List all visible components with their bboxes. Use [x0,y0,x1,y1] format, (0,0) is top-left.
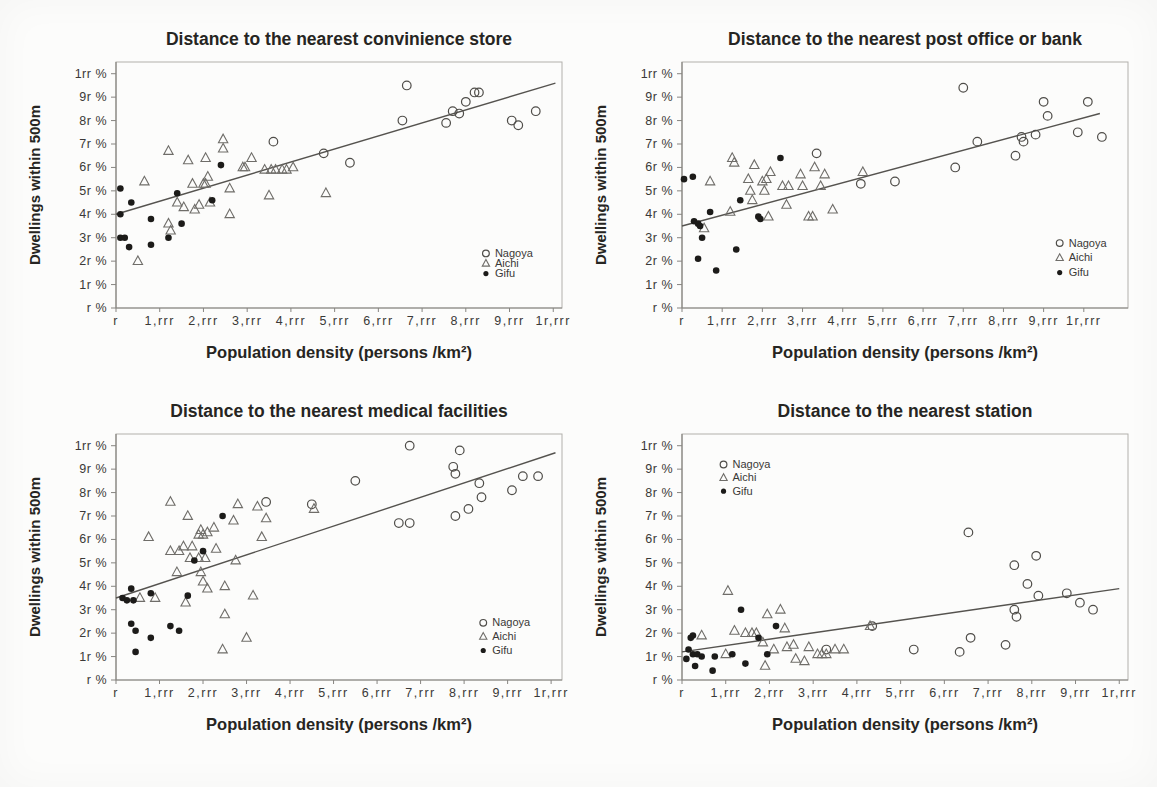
gifu-point-marker [742,660,749,667]
aichi-point-marker [257,532,266,541]
aichi-point-marker [225,209,234,218]
x-tick-label: 5,rrr [868,314,898,328]
aichi-point-marker [242,633,251,642]
y-tick-label: 6r % [645,532,673,546]
x-tick-label: 1r,rrr [533,686,568,700]
gifu-point-marker [692,663,699,670]
x-tick-label: 8,rrr [451,314,481,328]
gifu-point-marker [148,635,155,642]
aichi-point-marker [166,546,175,555]
x-tick-label: 1r,rrr [1066,314,1101,328]
gifu-point-marker [695,256,702,263]
aichi-point-marker [810,162,819,171]
aichi-point-marker [220,581,229,590]
x-tick-label: r [679,314,685,328]
x-tick-label: 7,rrr [405,686,435,700]
x-tick-label: 5,rrr [318,686,348,700]
gifu-point-marker [200,548,207,555]
aichi-point-marker [705,176,714,185]
aichi-point-marker [321,188,330,197]
y-tick-label: 9r % [645,462,673,476]
nagoya-point-marker [395,519,404,528]
gifu-point-marker [148,241,155,248]
chart-title: Distance to the nearest post office or b… [728,29,1082,49]
plot-area: r1,rrr2,rrr3,rrr4,rrr5,rrr6,rrr7,rrr8,rr… [641,434,1137,700]
gifu-point-marker [738,606,745,613]
nagoya-point-marker [857,180,866,189]
nagoya-point-marker [1073,128,1082,137]
aichi-point-marker [188,179,197,188]
y-tick-label: 3r % [79,231,107,245]
aichi-point-marker [233,499,242,508]
y-tick-label: 1rr % [75,439,107,453]
x-tick-label: 5,rrr [319,314,349,328]
y-tick-label: 3r % [79,603,107,617]
legend-label-aichi: Aichi [733,471,757,483]
gifu-point-marker [713,267,720,274]
x-tick-label: 3,rrr [798,686,828,700]
aichi-point-marker [746,186,755,195]
nagoya-point-marker [442,119,451,128]
legend-label-aichi: Aichi [1069,251,1093,263]
aichi-point-marker [164,218,173,227]
x-tick-label: 1,rrr [707,314,737,328]
y-axis-title: Dwellings within 500m [26,105,43,265]
nagoya-point-marker [1034,591,1043,600]
aichi-point-marker [780,623,789,632]
aichi-point-marker [203,172,212,181]
aichi-point-marker [229,515,238,524]
x-tick-label: 8,rrr [988,314,1018,328]
nagoya-point-marker [1098,133,1107,142]
aichi-point-marker [798,181,807,190]
aichi-point-marker [828,204,837,213]
y-tick-label: 3r % [645,231,673,245]
x-tick-label: 2,rrr [747,314,777,328]
x-tick-label: 8,rrr [449,686,479,700]
x-tick-label: 9,rrr [1060,686,1090,700]
aichi-point-marker [211,544,220,553]
legend-label-gifu: Gifu [733,485,753,497]
gifu-point-marker [698,653,705,660]
y-tick-label: 7r % [645,509,673,523]
y-tick-label: 1rr % [641,67,673,81]
x-tick-label: r [679,686,685,700]
gifu-point-marker [184,592,191,599]
aichi-point-marker [198,576,207,585]
y-tick-label: 4r % [79,207,107,221]
y-tick-label: 1r % [79,650,107,664]
nagoya-point-marker [1084,98,1093,107]
nagoya-point-marker [464,505,473,514]
nagoya-point-marker [514,121,523,130]
y-tick-label: 2r % [79,626,107,640]
aichi-point-marker [133,256,142,265]
aichi-point-marker [183,155,192,164]
gifu-point-marker [174,190,181,197]
aichi-point-marker [201,153,210,162]
x-tick-label: 1,rrr [144,686,174,700]
aichi-point-marker [800,656,809,665]
gifu-point-marker [711,653,718,660]
gifu-point-marker [683,656,690,663]
y-tick-label: 8r % [79,486,107,500]
aichi-point-marker [480,633,487,640]
y-tick-label: 1r % [79,278,107,292]
aichi-point-marker [173,197,182,206]
x-tick-label: 1r,rrr [1102,686,1137,700]
gifu-point-marker [481,648,486,653]
gifu-point-marker [191,557,198,564]
aichi-point-marker [776,605,785,614]
aichi-point-marker [166,497,175,506]
nagoya-point-marker [483,250,490,257]
gifu-point-marker [721,489,726,494]
gifu-point-marker [218,162,225,169]
nagoya-point-marker [477,493,486,502]
y-tick-label: 1rr % [641,439,673,453]
gifu-point-marker [707,209,714,216]
gifu-point-marker [132,628,139,635]
aichi-point-marker [744,174,753,183]
x-tick-label: 1,rrr [711,686,741,700]
aichi-point-marker [769,644,778,653]
y-tick-label: 7r % [79,137,107,151]
gifu-point-marker [132,649,139,656]
legend-label-nagoya: Nagoya [492,616,531,628]
